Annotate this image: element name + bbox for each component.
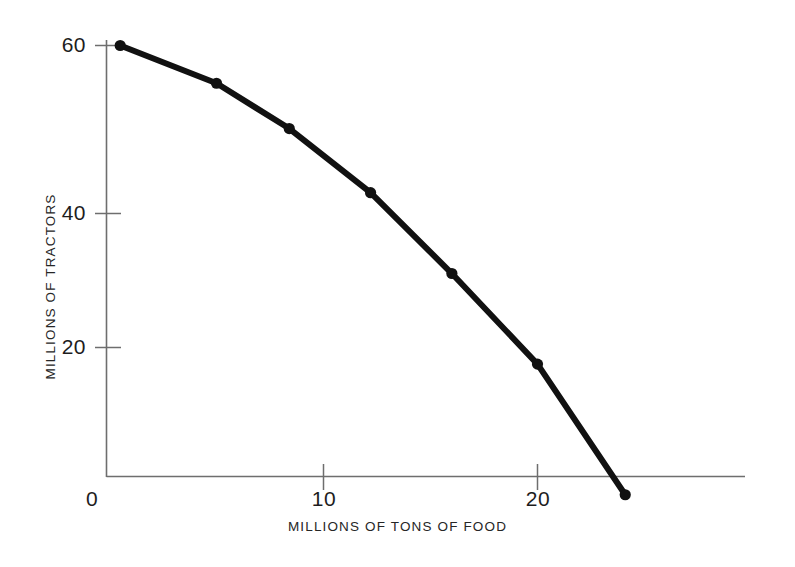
series-line	[120, 46, 625, 495]
data-point	[284, 123, 295, 134]
data-point	[620, 489, 631, 500]
data-series-group	[115, 40, 631, 500]
x-tick-label-20: 20	[508, 487, 568, 511]
x-tick-label-0: 0	[62, 487, 122, 511]
x-axis-title: MILLIONS OF TONS OF FOOD	[0, 519, 795, 534]
data-point	[365, 187, 376, 198]
y-axis-ticks	[95, 46, 121, 348]
plot-area	[0, 0, 795, 567]
data-point	[211, 78, 222, 89]
chart-figure: 60 40 20 0 10 20 MILLIONS OF TONS OF FOO…	[0, 0, 795, 567]
y-axis-title: MILLIONS OF TRACTORS	[43, 177, 58, 397]
data-point	[532, 359, 543, 370]
series-markers	[115, 40, 631, 500]
axis-lines	[107, 40, 746, 477]
data-point	[446, 268, 457, 279]
x-tick-label-10: 10	[294, 487, 354, 511]
y-tick-label-60: 60	[22, 33, 86, 57]
data-point	[115, 40, 126, 51]
